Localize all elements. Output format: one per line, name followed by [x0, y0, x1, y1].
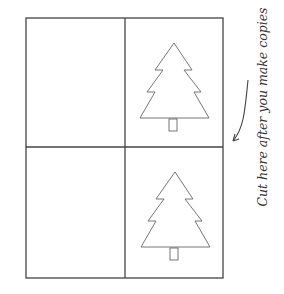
card-template [0, 0, 284, 294]
tree-icon [140, 43, 209, 131]
tree-icon [141, 172, 210, 260]
cut-instruction-text: Cut here after you make copies [255, 7, 270, 206]
curved-arrow-icon [233, 80, 248, 141]
